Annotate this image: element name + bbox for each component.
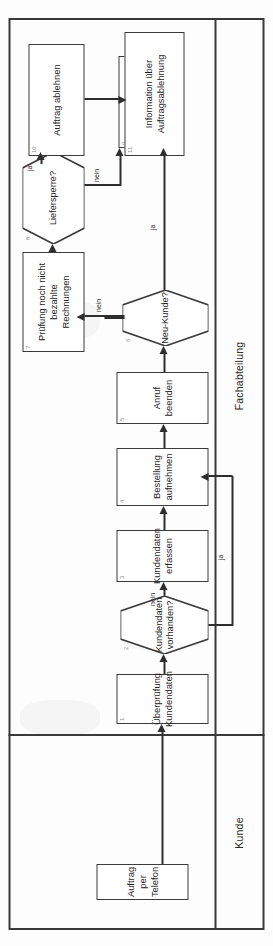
edge-3-to-4: [163, 514, 165, 530]
edge-6-to-7-seg1: [104, 317, 124, 319]
node-ueberpruefung-kundendaten[interactable]: 1 Überprüfung Kundendaten: [116, 674, 208, 724]
node-number: 8: [24, 237, 30, 240]
node-number: 10: [30, 146, 36, 153]
node-label-line1: Überprüfung: [150, 673, 162, 725]
edge-arrowhead: [200, 473, 208, 481]
edge-arrowhead: [159, 654, 167, 662]
edge-8-to-9-seg2: [119, 156, 121, 186]
edge-arrowhead: [76, 313, 84, 321]
edge-6-to-7-main: [84, 315, 124, 317]
node-label-line1: Auftrag ablehnen: [50, 64, 62, 135]
lane-label-divider: [214, 18, 216, 930]
edge-label-nein-6: nein: [94, 299, 101, 312]
edge-arrowhead: [159, 582, 167, 590]
lane-separator: [8, 734, 264, 736]
node-number: 5: [118, 418, 124, 421]
edge-label-nein-8: nein: [92, 169, 99, 182]
edge-label-ja-2: ja: [216, 555, 223, 560]
node-neu-kunde[interactable]: 6 Neu-Kunde?: [122, 290, 208, 346]
node-number: 1: [118, 718, 124, 721]
edge-10-to-11: [84, 98, 122, 100]
lane-label-kunde: Kunde: [232, 736, 244, 930]
gateway-hexagon-icon: [122, 290, 208, 346]
edge-label-ja-6: ja: [148, 225, 155, 230]
edge-4-to-5: [163, 432, 165, 448]
flowchart-canvas: Kunde Fachabteilung Auftrag per Telefon …: [0, 0, 273, 946]
node-label-line2: aufnehmen: [162, 454, 174, 501]
node-label-line2: erfassen: [162, 538, 174, 574]
edge-2-to-4-seg1: [208, 624, 232, 626]
node-number: 11: [126, 147, 132, 153]
edge-arrowhead: [159, 424, 167, 432]
node-number: 3: [118, 576, 124, 579]
node-label-line3: Rechnungen: [59, 275, 71, 328]
edge-arrowhead: [159, 148, 167, 156]
node-label-line1: Anruf beenden: [150, 376, 174, 420]
edge-arrowhead: [115, 148, 123, 156]
edge-label-ja-8: ja: [25, 166, 32, 171]
node-label-line1: Information über: [142, 60, 154, 128]
edge-arrowhead: [48, 244, 56, 252]
diagram-rotation-wrapper: Kunde Fachabteilung Auftrag per Telefon …: [0, 0, 273, 946]
edge-2-to-4-seg2: [231, 476, 233, 626]
lane-label-fachabteilung: Fachabteilung: [232, 18, 244, 734]
edge-2-to-3: [163, 590, 165, 596]
gateway-hexagon-icon: [120, 596, 208, 654]
node-bestellung-aufnehmen[interactable]: 4 Bestellung aufnehmen: [116, 448, 208, 506]
node-information-auftragsablehnung[interactable]: 11 Information über Auftragsablehnung: [124, 32, 184, 156]
node-label-line1: Kundendaten: [150, 528, 162, 584]
edge-label-nein-2: nein: [148, 593, 155, 606]
node-label-line2: per Telefon: [136, 867, 160, 897]
edge-telefon-to-1: [161, 732, 163, 864]
node-label-line2: Auftragsablehnung: [154, 55, 166, 134]
node-label-line1: Bestellung: [150, 455, 162, 499]
edge-6-to-9: [163, 156, 165, 290]
edge-2-to-4-seg3: [208, 475, 232, 477]
node-number: 7: [24, 346, 30, 349]
scanned-page: Kunde Fachabteilung Auftrag per Telefon …: [0, 0, 273, 946]
edge-5-to-6: [163, 354, 165, 372]
edge-arrowhead: [159, 506, 167, 514]
node-number: 2: [122, 647, 128, 650]
node-anruf-beenden[interactable]: 5 Anruf beenden: [116, 372, 208, 424]
node-label-line1: Auftrag: [124, 867, 136, 897]
node-label-line2: Kundendaten: [162, 671, 174, 727]
node-auftrag-ablehnen[interactable]: 10 Auftrag ablehnen: [28, 44, 84, 156]
node-auftrag-per-telefon[interactable]: Auftrag per Telefon: [96, 864, 188, 900]
node-number: 4: [118, 500, 124, 503]
node-kundendaten-vorhanden[interactable]: 2 Kundendaten vorhanden?: [120, 596, 208, 654]
node-label-line1: Prüfung noch nicht: [35, 263, 47, 341]
node-number: 6: [124, 339, 130, 342]
node-kundendaten-erfassen[interactable]: 3 Kundendaten erfassen: [116, 530, 208, 582]
edge-arrowhead: [118, 96, 126, 104]
node-label-line2: bezahlte: [47, 284, 59, 319]
edge-arrowhead: [36, 152, 44, 160]
edge-8-to-9-seg1: [84, 184, 120, 186]
edge-arrowhead: [159, 346, 167, 354]
edge-arrowhead: [157, 724, 165, 732]
edge-1-to-2: [163, 662, 165, 674]
node-pruefung-rechnungen[interactable]: 7 Prüfung noch nicht bezahlte Rechnungen: [22, 252, 84, 352]
